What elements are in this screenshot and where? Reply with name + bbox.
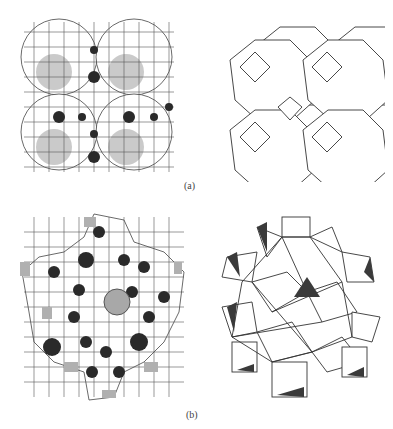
panel-b-left-ring-framework [14,212,194,402]
truncated-octahedra-illustration [210,12,385,182]
panel-a-right-polyhedra [210,12,385,182]
ring-framework-b-illustration [14,212,194,402]
panel-b-right-polyhedra [212,212,387,402]
ring-framework-a-illustration [14,12,184,182]
panel-b-label: (b) [186,409,198,420]
panel-a-label: (a) [184,180,195,191]
polyhedra-b-illustration [212,212,387,402]
panel-a-left-ring-framework [14,12,184,182]
